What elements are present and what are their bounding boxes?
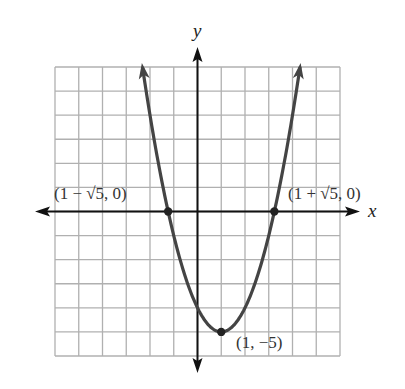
x-axis-label: x [367,200,377,221]
right-root-label: (1 + √5, 0) [288,184,361,203]
vertex-label: (1, −5) [236,333,282,352]
key-point-dot [270,207,278,215]
axes [35,47,360,373]
y-axis-label: y [191,20,202,41]
parabola-chart: y x (1 − √5, 0) (1 + √5, 0) (1, −5) [0,0,405,389]
key-point-dot [164,207,172,215]
left-root-label: (1 − √5, 0) [54,184,127,203]
key-point-dot [217,328,225,336]
